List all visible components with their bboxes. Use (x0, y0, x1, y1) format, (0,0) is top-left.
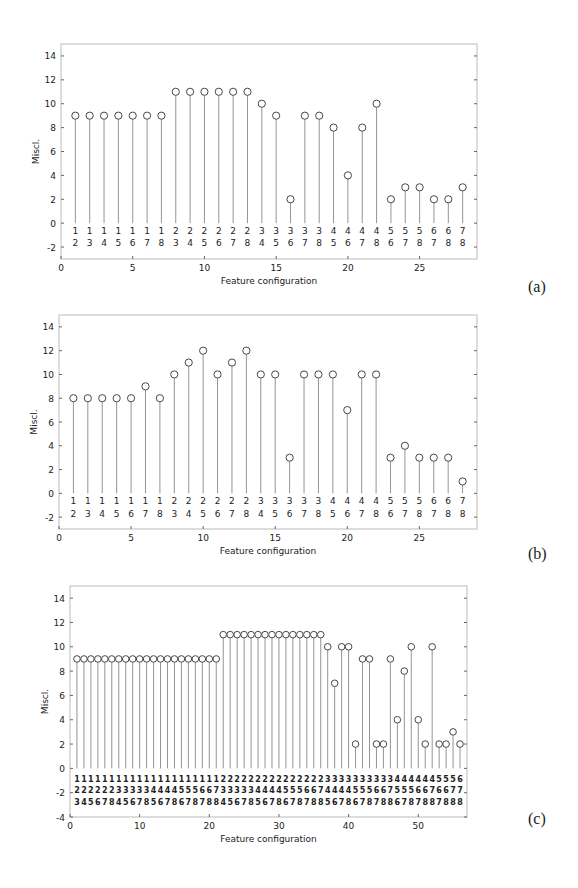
config-label-digit: 3 (388, 775, 394, 784)
stem-marker (380, 741, 387, 748)
y-tick-label: -2 (56, 788, 65, 798)
config-label-digit: 4 (220, 798, 226, 807)
stem-marker (394, 716, 401, 723)
config-label-digit: 7 (230, 238, 236, 248)
config-label-digit: 2 (248, 775, 254, 784)
config-label-digit: 6 (431, 226, 437, 236)
config-label-digit: 3 (85, 509, 91, 519)
stem-marker (227, 631, 234, 638)
y-tick-label: -2 (47, 243, 56, 253)
config-label-digit: 1 (95, 775, 101, 784)
x-tick-label: 5 (130, 263, 136, 273)
panel-label-b: (b) (528, 545, 547, 563)
config-label-digit: 3 (381, 775, 387, 784)
stem-marker (178, 656, 185, 663)
config-label-digit: 5 (325, 798, 331, 807)
stem-marker (142, 383, 149, 390)
config-label-digit: 3 (332, 775, 338, 784)
config-label-digit: 5 (186, 786, 192, 795)
config-label-digit: 8 (346, 798, 352, 807)
config-label-digit: 8 (429, 798, 435, 807)
config-label-digit: 4 (346, 786, 352, 795)
stem-marker (459, 184, 466, 191)
y-tick-label: 14 (43, 322, 55, 332)
config-label-digit: 3 (339, 775, 345, 784)
config-label-digit: 5 (297, 786, 303, 795)
y-tick-label: 12 (54, 618, 65, 628)
stem-chart-c: -4-20246810121401020304050Feature config… (0, 580, 578, 870)
config-label-digit: 4 (359, 226, 365, 236)
config-label-digit: 1 (81, 775, 87, 784)
config-label-digit: 8 (450, 798, 456, 807)
config-label-digit: 3 (287, 496, 293, 506)
stem-marker (286, 454, 293, 461)
config-label-digit: 5 (255, 798, 261, 807)
stem-chart-a: -2024681012140510152025Feature configura… (0, 30, 578, 300)
stem-marker (129, 656, 136, 663)
config-label-digit: 1 (123, 775, 129, 784)
config-label-digit: 5 (402, 786, 408, 795)
config-label-digit: 7 (402, 238, 408, 248)
config-label-digit: 5 (330, 509, 336, 519)
config-label-digit: 6 (158, 798, 164, 807)
x-axis-label: Feature configuration (220, 546, 317, 556)
config-label-digit: 5 (200, 509, 206, 519)
config-label-digit: 8 (172, 798, 178, 807)
config-label-digit: 2 (215, 496, 221, 506)
config-label-digit: 7 (213, 786, 219, 795)
y-tick-label: -2 (45, 513, 54, 523)
config-label-digit: 4 (101, 238, 107, 248)
config-label-digit: 4 (344, 496, 350, 506)
config-label-digit: 4 (158, 786, 164, 795)
stem-marker (95, 656, 102, 663)
stem-marker (429, 643, 436, 650)
stem-marker (156, 395, 163, 402)
config-label-digit: 3 (74, 798, 80, 807)
stem-marker (422, 741, 429, 748)
stem-marker (402, 184, 409, 191)
config-label-digit: 7 (388, 786, 394, 795)
config-label-digit: 4 (339, 786, 345, 795)
config-label-digit: 5 (179, 786, 185, 795)
config-label-digit: 1 (130, 775, 136, 784)
stem-marker (185, 359, 192, 366)
config-label-digit: 8 (443, 798, 449, 807)
stem-marker (187, 88, 194, 95)
config-label-digit: 5 (290, 786, 296, 795)
stem-marker (344, 407, 351, 414)
config-label-digit: 3 (130, 786, 136, 795)
config-label-digit: 2 (262, 775, 268, 784)
config-label-digit: 5 (450, 775, 456, 784)
stem-marker (290, 631, 297, 638)
config-label-digit: 7 (359, 238, 365, 248)
config-label-digit: 2 (255, 775, 261, 784)
config-label-digit: 4 (331, 226, 337, 236)
config-label-digit: 7 (165, 798, 171, 807)
config-label-digit: 4 (151, 786, 157, 795)
config-label-digit: 2 (186, 496, 192, 506)
x-tick-label: 5 (128, 533, 134, 543)
config-label-digit: 4 (172, 786, 178, 795)
stem-marker (273, 112, 280, 119)
config-label-digit: 2 (216, 226, 222, 236)
stem-marker (115, 656, 122, 663)
config-label-digit: 7 (301, 509, 307, 519)
config-label-digit: 8 (109, 798, 115, 807)
config-label-digit: 2 (220, 775, 226, 784)
config-label-digit: 8 (245, 238, 251, 248)
x-tick-label: 10 (199, 263, 211, 273)
config-label-digit: 4 (116, 798, 122, 807)
stem-marker (310, 631, 317, 638)
config-label-digit: 1 (116, 775, 122, 784)
config-label-digit: 3 (374, 775, 380, 784)
stem-marker (199, 656, 206, 663)
x-tick-label: 25 (414, 533, 425, 543)
stem-marker (185, 656, 192, 663)
config-label-digit: 1 (193, 775, 199, 784)
config-label-digit: 7 (143, 509, 149, 519)
y-tick-label: 4 (48, 441, 54, 451)
stem-marker (262, 631, 269, 638)
config-label-digit: 1 (179, 775, 185, 784)
config-label-digit: 3 (137, 786, 143, 795)
config-label-digit: 2 (276, 775, 282, 784)
